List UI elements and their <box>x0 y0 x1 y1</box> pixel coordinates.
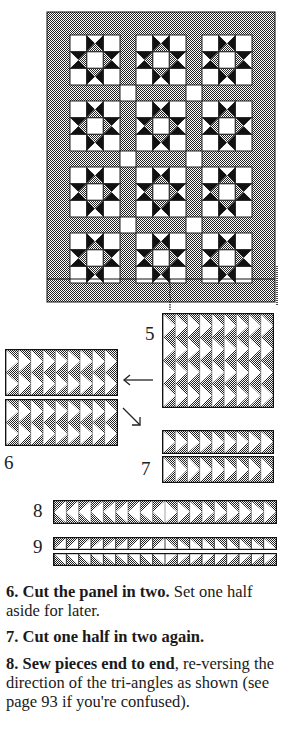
step-label-8: 8 <box>33 500 43 522</box>
arrow-down-right-icon <box>121 406 143 428</box>
strip-step-8 <box>53 500 277 524</box>
instruction-step-7: 7. Cut one half in two again. <box>6 627 286 646</box>
strip-step-9-top <box>53 537 277 550</box>
step-label-7: 7 <box>141 458 151 480</box>
step-label-5: 5 <box>145 323 155 345</box>
instruction-number: 6. <box>6 582 18 601</box>
instruction-heading: Cut one half in two again. <box>23 627 205 646</box>
quilt-diagram-lower <box>46 0 278 310</box>
step-label-6: 6 <box>4 452 14 474</box>
strip-step-9-bottom <box>53 553 277 566</box>
strip-step-7-top <box>162 430 274 454</box>
half-piece-bottom <box>5 399 118 446</box>
step-label-9: 9 <box>33 536 43 558</box>
arrow-left-icon <box>122 374 154 386</box>
instruction-step-8: 8. Sew pieces end to end, re-versing the… <box>6 654 286 711</box>
panel-step-5 <box>162 313 274 408</box>
instruction-heading: Sew pieces end to end <box>23 654 175 673</box>
instruction-heading: Cut the panel in two. <box>23 582 170 601</box>
instruction-step-6: 6. Cut the panel in two. Set one half as… <box>6 582 286 620</box>
half-piece-top <box>5 349 118 396</box>
strip-step-7-bottom <box>162 456 274 483</box>
instruction-number: 7. <box>6 627 18 646</box>
quilt-full-svg <box>46 0 278 310</box>
instruction-number: 8. <box>6 654 18 673</box>
